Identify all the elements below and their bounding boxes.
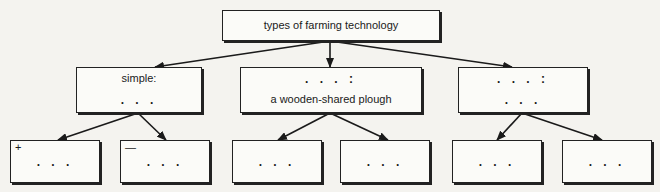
node-placeholder: . . . : — [459, 72, 587, 86]
node-simple: simple: . . . — [76, 67, 202, 113]
arrow-right-to-b6 — [522, 113, 602, 140]
leaf-node: . . . — [232, 140, 322, 183]
leaf-placeholder: . . . — [563, 155, 651, 169]
leaf-placeholder: . . . — [121, 155, 209, 169]
arrow-middle-to-b3 — [278, 113, 330, 140]
leaf-node: . . . — [452, 140, 542, 183]
arrow-right-to-b5 — [497, 113, 522, 140]
node-title: simple: — [77, 72, 201, 84]
arrow-simple-to-minus — [138, 113, 166, 140]
minus-sign: — — [125, 141, 136, 153]
node-example: a wooden-shared plough — [241, 93, 421, 105]
node-placeholder: . . . : — [241, 72, 421, 86]
node-middle: . . . : a wooden-shared plough — [240, 67, 422, 113]
arrow-simple-to-plus — [58, 113, 138, 140]
root-label: types of farming technology — [223, 11, 439, 40]
leaf-node: . . . — [562, 140, 652, 183]
node-placeholder: . . . — [459, 93, 587, 107]
node-right: . . . : . . . — [458, 67, 588, 113]
plus-sign: + — [15, 141, 21, 153]
node-placeholder: . . . — [77, 93, 201, 107]
root-node: types of farming technology — [222, 10, 440, 41]
leaf-node-plus: + . . . — [10, 140, 100, 183]
leaf-node: . . . — [340, 140, 430, 183]
leaf-placeholder: . . . — [453, 155, 541, 169]
leaf-placeholder: . . . — [11, 155, 99, 169]
leaf-node-minus: — . . . — [120, 140, 210, 183]
arrow-root-to-simple — [155, 41, 330, 67]
leaf-placeholder: . . . — [341, 155, 429, 169]
arrow-middle-to-b4 — [330, 113, 388, 140]
leaf-placeholder: . . . — [233, 155, 321, 169]
arrow-root-to-right — [330, 41, 512, 67]
